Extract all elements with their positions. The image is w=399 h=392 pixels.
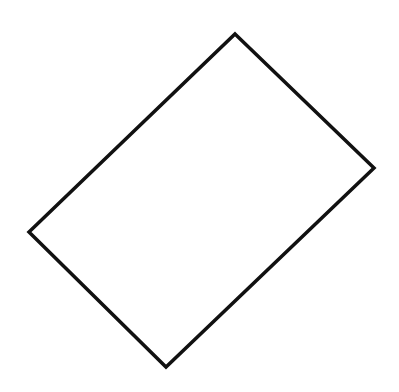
diagram-svg xyxy=(0,0,399,392)
diagram-canvas xyxy=(0,0,399,392)
rotated-rectangle xyxy=(29,34,374,367)
